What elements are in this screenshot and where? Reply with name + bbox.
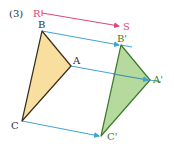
- label-c: C: [11, 120, 19, 131]
- label-c-prime: C': [107, 131, 117, 142]
- label-b: B: [38, 19, 45, 30]
- triangle-abc: [22, 31, 71, 121]
- vector-rs: [42, 10, 119, 26]
- translation-diagram: (3) R S B A C B' A' C': [0, 0, 174, 144]
- arrow-c-to-c-prime: [22, 121, 99, 136]
- label-a-prime: A': [152, 74, 163, 85]
- label-r: R: [33, 8, 41, 19]
- figure-number: (3): [9, 8, 23, 19]
- arrow-b-to-b-prime: [42, 31, 119, 45]
- triangle-a-b-c-prime: [101, 45, 150, 136]
- label-s: S: [123, 21, 130, 32]
- diagram-canvas: (3) R S B A C B' A' C': [0, 0, 174, 144]
- label-b-prime: B': [117, 33, 127, 44]
- label-a: A: [72, 55, 81, 66]
